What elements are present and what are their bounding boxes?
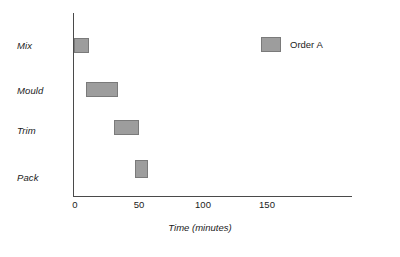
category-label-mould: Mould	[17, 85, 60, 96]
gantt-bar-trim[interactable]	[114, 120, 140, 135]
category-label-pack: Pack	[17, 172, 60, 183]
gantt-bar-mould[interactable]	[86, 82, 118, 97]
legend-swatch-order-a	[261, 37, 281, 52]
legend-label-order-a: Order A	[290, 39, 323, 50]
gantt-bar-mix[interactable]	[74, 38, 89, 53]
gantt-chart: Mix Mould Trim Pack 0 50 100 150 Time (m…	[0, 0, 400, 257]
x-tick-label-100: 100	[195, 199, 211, 210]
x-tick-label-0: 0	[72, 199, 77, 210]
legend: Order A	[261, 37, 323, 52]
x-tick-label-150: 150	[259, 199, 275, 210]
x-axis-title: Time (minutes)	[0, 222, 400, 233]
x-tick-label-50: 50	[134, 199, 145, 210]
x-axis-line	[73, 196, 352, 197]
category-label-mix: Mix	[17, 40, 60, 51]
gantt-bar-pack[interactable]	[135, 160, 148, 178]
category-label-trim: Trim	[17, 125, 60, 136]
